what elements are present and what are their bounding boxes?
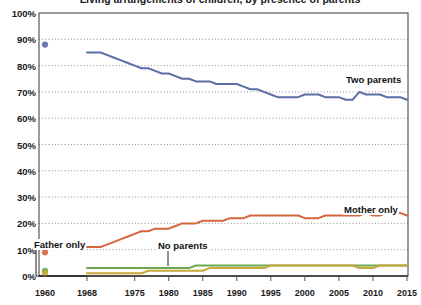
x-axis-tick-2005: 2005 bbox=[329, 288, 349, 298]
x-axis-tick-1985: 1985 bbox=[193, 288, 213, 298]
x-axis-tick-1990: 1990 bbox=[227, 288, 247, 298]
annotation-father-only: Father only bbox=[33, 239, 86, 250]
x-axis-tick-2000: 2000 bbox=[295, 288, 315, 298]
annotation-no-parents: No parents bbox=[157, 240, 209, 251]
chart-plot-area bbox=[0, 0, 421, 305]
x-axis-tick-1980: 1980 bbox=[159, 288, 179, 298]
chart-container: Living arrangements of children, by pres… bbox=[0, 0, 421, 305]
annotation-two-parents: Two parents bbox=[345, 74, 402, 85]
x-axis-tick-1968: 1968 bbox=[77, 288, 97, 298]
x-axis-tick-1995: 1995 bbox=[261, 288, 281, 298]
x-axis-tick-1975: 1975 bbox=[125, 288, 145, 298]
x-axis-tick-2015: 2015 bbox=[397, 288, 417, 298]
x-axis-tick-1960: 1960 bbox=[35, 288, 55, 298]
x-axis-tick-2010: 2010 bbox=[363, 288, 383, 298]
annotation-mother-only: Mother only bbox=[343, 204, 399, 215]
